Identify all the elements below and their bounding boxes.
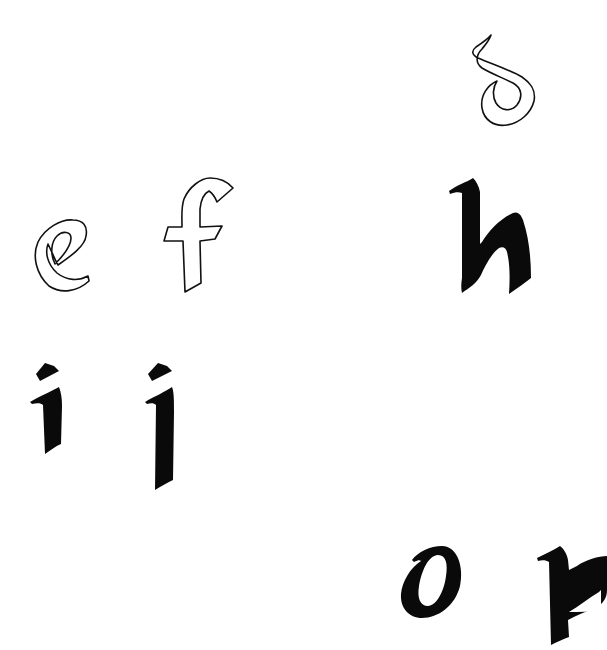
glyph-p-solid: p bbox=[537, 546, 607, 646]
glyph-o-solid: o bbox=[400, 546, 463, 619]
glyph-j-solid: j bbox=[145, 362, 179, 491]
glyph-d-outline: d bbox=[470, 33, 545, 128]
glyph-e-outline: e bbox=[33, 218, 93, 293]
glyph-i-solid: i bbox=[30, 362, 66, 455]
glyph-h-solid: h bbox=[449, 178, 533, 295]
glyph-f-outline: f bbox=[163, 177, 236, 293]
